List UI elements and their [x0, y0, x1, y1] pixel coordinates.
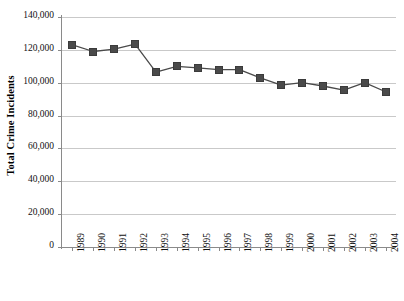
data-point-marker	[382, 88, 390, 96]
data-point-marker	[110, 45, 118, 53]
gridline	[62, 148, 396, 149]
data-point-marker	[277, 81, 285, 89]
gridline	[62, 116, 396, 117]
data-point-marker	[298, 79, 306, 87]
x-tick-label: 2004	[390, 233, 400, 252]
x-tick-label: 1994	[181, 233, 191, 252]
x-tick-label: 1991	[118, 233, 128, 252]
y-axis-line	[61, 15, 62, 249]
data-point-marker	[131, 40, 139, 48]
gridline	[62, 181, 396, 182]
data-point-marker	[319, 82, 327, 90]
x-tick-label: 1996	[223, 233, 233, 252]
y-tick-label: 80,000	[0, 109, 54, 119]
y-tick-label: 60,000	[0, 141, 54, 151]
gridline	[62, 17, 396, 18]
y-tick-label: 100,000	[0, 76, 54, 86]
x-tick-label: 1995	[202, 233, 212, 252]
data-point-marker	[256, 74, 264, 82]
data-point-marker	[235, 66, 243, 74]
y-tick-label: 140,000	[0, 10, 54, 20]
data-point-marker	[361, 79, 369, 87]
x-tick-label: 2003	[369, 233, 379, 252]
gridline	[62, 214, 396, 215]
y-tick-label: 0	[0, 240, 54, 250]
data-point-marker	[152, 68, 160, 76]
data-point-marker	[68, 41, 76, 49]
x-tick-label: 2000	[306, 233, 316, 252]
crime-incidents-line-chart: Total Crime Incidents 020,00040,00060,00…	[0, 0, 404, 301]
y-axis-title-text: Total Crime Incidents	[5, 75, 16, 175]
y-tick-label: 120,000	[0, 43, 54, 53]
data-point-marker	[215, 66, 223, 74]
y-tick-label: 20,000	[0, 207, 54, 217]
x-tick-label: 1990	[97, 233, 107, 252]
x-tick-label: 2002	[348, 233, 358, 252]
x-tick-label: 2001	[327, 233, 337, 252]
data-point-marker	[173, 62, 181, 70]
x-tick-label: 1989	[76, 233, 86, 252]
data-point-marker	[89, 48, 97, 56]
x-tick-label: 1998	[264, 233, 274, 252]
y-tick-label: 40,000	[0, 174, 54, 184]
x-tick-label: 1999	[285, 233, 295, 252]
x-axis-line	[61, 247, 396, 248]
gridline	[62, 83, 396, 84]
data-point-marker	[340, 86, 348, 94]
x-tick-label: 1992	[139, 233, 149, 252]
data-point-marker	[194, 64, 202, 72]
x-tick-label: 1997	[243, 233, 253, 252]
x-tick-label: 1993	[160, 233, 170, 252]
